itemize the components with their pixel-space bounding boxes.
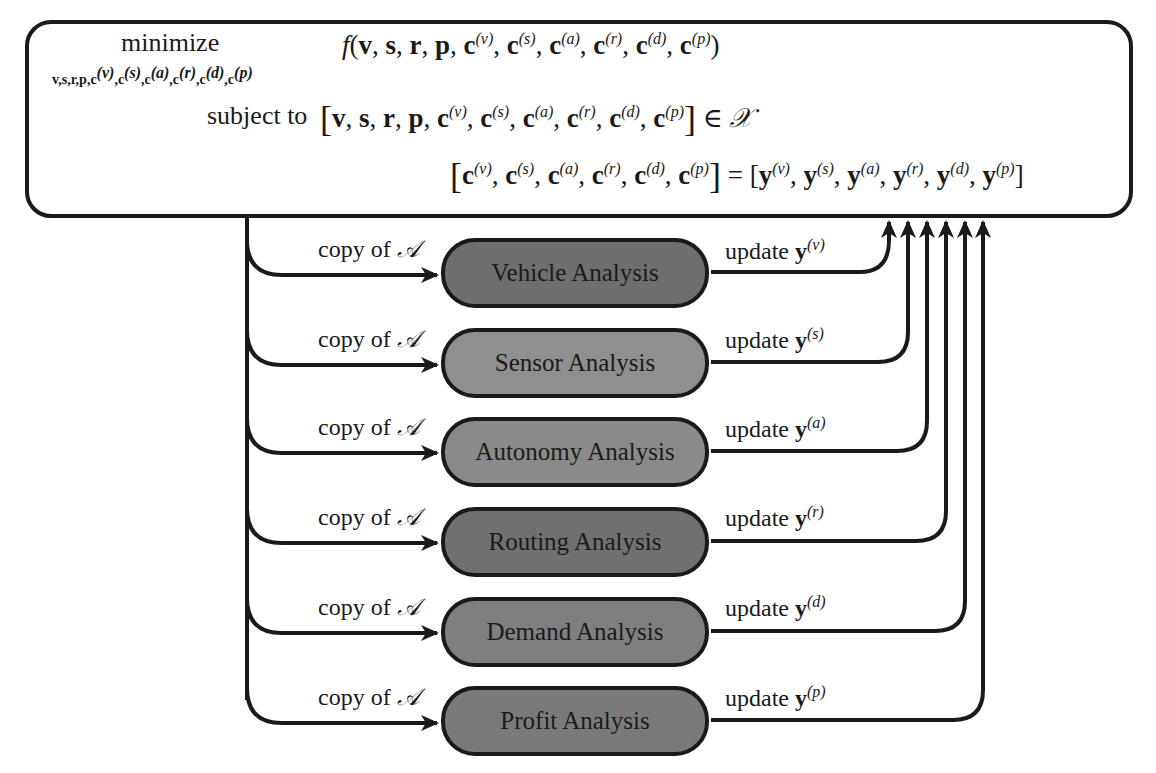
input-label-demand: copy of 𝒜 — [318, 594, 420, 621]
vehicle-analysis-node: Vehicle Analysis — [441, 238, 709, 308]
autonomy-analysis-node: Autonomy Analysis — [441, 417, 709, 487]
minimize-variables: v,s,r,p,c(v),c(s),c(a),c(r),c(d),c(p) — [52, 64, 253, 88]
input-label-autonomy: copy of 𝒜 — [318, 414, 420, 441]
output-label-sensor: update y(s) — [725, 325, 824, 354]
input-label-routing: copy of 𝒜 — [318, 504, 420, 531]
consistency-constraint: [c(v), c(s), c(a), c(r), c(d), c(p)] = [… — [450, 155, 1024, 197]
input-label-vehicle: copy of 𝒜 — [318, 236, 420, 263]
subject-to-label: subject to — [207, 101, 307, 131]
routing-analysis-label: Routing Analysis — [489, 528, 662, 556]
output-arrow-routing — [711, 222, 946, 541]
feasibility-constraint: [v, s, r, p, c(v), c(s), c(a), c(r), c(d… — [320, 98, 752, 140]
output-label-demand: update y(d) — [725, 593, 826, 622]
autonomy-analysis-label: Autonomy Analysis — [475, 438, 674, 466]
input-label-profit: copy of 𝒜 — [318, 684, 420, 711]
output-arrow-profit — [711, 222, 983, 720]
output-label-profit: update y(p) — [725, 683, 826, 712]
output-label-autonomy: update y(a) — [725, 414, 826, 443]
output-label-vehicle: update y(v) — [725, 236, 825, 265]
demand-analysis-node: Demand Analysis — [441, 597, 709, 667]
vehicle-analysis-label: Vehicle Analysis — [491, 259, 658, 287]
input-label-sensor: copy of 𝒜 — [318, 326, 420, 353]
output-label-routing: update y(r) — [725, 503, 824, 532]
profit-analysis-label: Profit Analysis — [500, 707, 649, 735]
profit-analysis-node: Profit Analysis — [441, 686, 709, 756]
demand-analysis-label: Demand Analysis — [486, 618, 663, 646]
sensor-analysis-node: Sensor Analysis — [441, 328, 709, 398]
minimize-label: minimize — [121, 28, 219, 58]
objective-function: f(v, s, r, p, c(v), c(s), c(a), c(r), c(… — [342, 30, 719, 61]
routing-analysis-node: Routing Analysis — [441, 507, 709, 577]
sensor-analysis-label: Sensor Analysis — [495, 349, 655, 377]
